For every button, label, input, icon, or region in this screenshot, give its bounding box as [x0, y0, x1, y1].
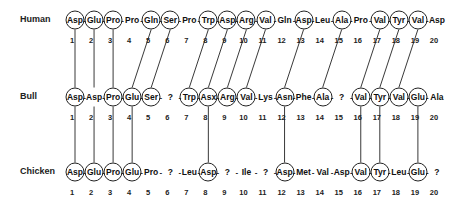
residue-chicken-17: Tyr — [370, 167, 389, 177]
residue-chicken-13: Met — [294, 167, 313, 177]
residue-human-6: Ser — [161, 15, 180, 25]
position-number: 8 — [197, 113, 213, 122]
position-number: 5 — [140, 188, 156, 197]
residue-chicken-2: Glu — [85, 167, 104, 177]
position-number: 17 — [369, 188, 385, 197]
position-number: 18 — [388, 36, 404, 45]
residue-chicken-4: Glu — [123, 167, 142, 177]
residue-chicken-10: Ile — [237, 167, 256, 177]
position-number: 5 — [140, 36, 156, 45]
position-number: 19 — [407, 36, 423, 45]
position-number: 16 — [350, 188, 366, 197]
position-number: 17 — [369, 113, 385, 122]
position-number: 14 — [312, 188, 328, 197]
position-number: 7 — [178, 113, 194, 122]
position-number: 18 — [388, 113, 404, 122]
residue-human-16: Pro — [351, 15, 370, 25]
position-number: 11 — [255, 188, 271, 197]
position-number: 13 — [293, 188, 309, 197]
position-number: 19 — [407, 188, 423, 197]
residue-bull-9: Arg — [218, 92, 237, 102]
position-number: 2 — [83, 113, 99, 122]
position-number: 18 — [388, 188, 404, 197]
position-number: 11 — [255, 36, 271, 45]
position-number: 16 — [350, 36, 366, 45]
residue-bull-4: Glu — [123, 92, 142, 102]
residue-chicken-11: ? — [256, 167, 275, 177]
residue-human-20: Asp — [427, 15, 446, 25]
position-number: 15 — [331, 113, 347, 122]
position-number: 1 — [64, 188, 80, 197]
position-number: 20 — [426, 113, 442, 122]
residue-chicken-5: Pro — [142, 167, 161, 177]
position-number: 1 — [64, 113, 80, 122]
position-number: 10 — [235, 36, 251, 45]
residue-human-8: Trp — [199, 15, 218, 25]
position-number: 19 — [407, 113, 423, 122]
residue-bull-11: Lys — [256, 92, 275, 102]
residue-chicken-3: Pro — [104, 167, 123, 177]
position-number: 7 — [178, 188, 194, 197]
residue-bull-2: Asp — [85, 92, 104, 102]
residue-human-10: Arg — [237, 15, 256, 25]
position-number: 16 — [350, 113, 366, 122]
residue-bull-3: Pro — [104, 92, 123, 102]
position-number: 10 — [235, 188, 251, 197]
residue-bull-15: ? — [332, 92, 351, 102]
position-number: 13 — [293, 113, 309, 122]
position-number: 17 — [369, 36, 385, 45]
position-number: 8 — [197, 188, 213, 197]
position-number: 2 — [83, 36, 99, 45]
residue-bull-6: ? — [161, 92, 180, 102]
residue-bull-16: Val — [351, 92, 370, 102]
position-number: 6 — [159, 36, 175, 45]
position-number: 6 — [159, 188, 175, 197]
residue-bull-5: Ser — [142, 92, 161, 102]
position-number: 20 — [426, 36, 442, 45]
residue-bull-12: Asn — [275, 92, 294, 102]
species-label-human: Human — [20, 14, 51, 24]
position-number: 9 — [216, 113, 232, 122]
residue-human-12: Gln — [275, 15, 294, 25]
sequence-alignment-diagram: Human Bull Chicken Asp-1Glu-2Pro-3Pro-4G… — [0, 0, 457, 203]
species-label-bull: Bull — [20, 91, 37, 101]
residue-chicken-14: Val — [313, 167, 332, 177]
residue-chicken-19: Glu — [408, 167, 427, 177]
residue-bull-14: Ala — [313, 92, 332, 102]
position-number: 12 — [274, 188, 290, 197]
position-number: 4 — [121, 188, 137, 197]
residue-chicken-16: Val — [351, 167, 370, 177]
residue-human-9: Asp — [218, 15, 237, 25]
residue-human-14: Leu — [313, 15, 332, 25]
residue-chicken-1: Asp — [66, 167, 85, 177]
position-number: 7 — [178, 36, 194, 45]
position-number: 15 — [331, 36, 347, 45]
position-number: 15 — [331, 188, 347, 197]
residue-human-7: Pro — [180, 15, 199, 25]
residue-human-19: Val — [408, 15, 427, 25]
residue-bull-19: Glu — [408, 92, 427, 102]
residue-bull-1: Asp — [66, 92, 85, 102]
residue-human-5: Gln — [142, 15, 161, 25]
residue-bull-8: Asx — [199, 92, 218, 102]
residue-human-4: Pro — [123, 15, 142, 25]
residue-human-11: Val — [256, 15, 275, 25]
position-number: 2 — [83, 188, 99, 197]
residue-human-2: Glu — [85, 15, 104, 25]
residue-chicken-7: Leu — [180, 167, 199, 177]
position-number: 8 — [197, 36, 213, 45]
residue-chicken-15: Asp — [332, 167, 351, 177]
position-number: 14 — [312, 36, 328, 45]
residue-chicken-20: ? — [427, 167, 446, 177]
position-number: 12 — [274, 36, 290, 45]
position-number: 5 — [140, 113, 156, 122]
residue-bull-18: Val — [389, 92, 408, 102]
position-number: 1 — [64, 36, 80, 45]
position-number: 3 — [102, 188, 118, 197]
residue-chicken-18: Leu — [389, 167, 408, 177]
residue-chicken-12: Asp — [275, 167, 294, 177]
position-number: 9 — [216, 36, 232, 45]
position-number: 4 — [121, 113, 137, 122]
position-number: 6 — [159, 113, 175, 122]
position-number: 14 — [312, 113, 328, 122]
